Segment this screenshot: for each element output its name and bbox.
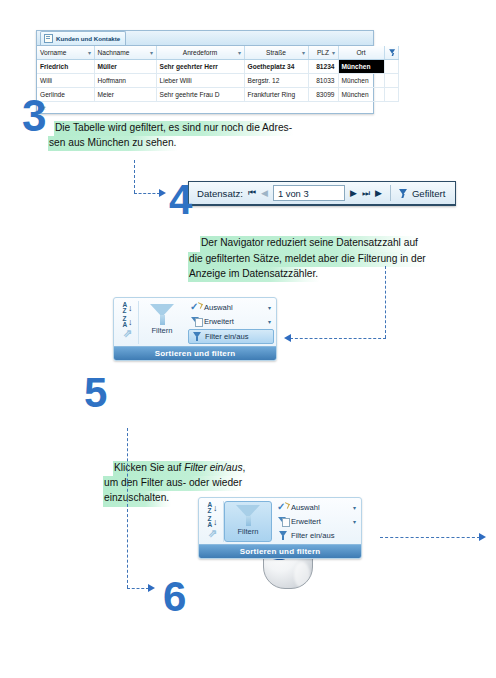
- cell-spacer: [384, 88, 398, 102]
- filter-big-button[interactable]: Filtern: [224, 501, 272, 542]
- cell-plz[interactable]: 81033: [308, 74, 338, 88]
- chevron-down-icon[interactable]: ▾: [332, 50, 335, 56]
- chevron-down-icon[interactable]: ▾: [238, 50, 241, 56]
- toggle-filter-label: Filter ein/aus: [291, 531, 334, 540]
- new-record-icon[interactable]: ▶: [375, 188, 382, 198]
- table-row[interactable]: Gerlinde Meier Sehr geehrte Frau D Frank…: [37, 88, 398, 102]
- chevron-down-icon[interactable]: ▾: [353, 518, 356, 525]
- step-3-line-2: sen aus München zu sehen.: [48, 136, 178, 151]
- cell-nachname[interactable]: Hoffmann: [94, 74, 156, 88]
- document-tab-strip: Kunden und Kontakte: [37, 31, 373, 46]
- filter-commands-column: Auswahl ▾ Erweitert ▾ Filter ein/aus: [185, 301, 274, 344]
- step-number-6: 6: [163, 580, 185, 614]
- datasheet-header-row: Vorname▾ Nachname▾ Anredeform▾ Straße▾ P…: [37, 46, 398, 60]
- toggle-filter-icon: [192, 332, 202, 342]
- column-header-nachname[interactable]: Nachname▾: [94, 46, 156, 60]
- new-record-row[interactable]: [37, 102, 373, 113]
- column-header-filter-indicator[interactable]: [384, 46, 398, 60]
- filter-big-button-label: Filtern: [151, 326, 172, 335]
- cell-ort[interactable]: München: [338, 88, 384, 102]
- ribbon-group-sort-and-filter-step6: AZ ↓ ZA ↓ ⇗ Filtern Auswahl ▾ Erweitert …: [198, 497, 362, 559]
- cell-strasse[interactable]: Bergstr. 12: [244, 74, 308, 88]
- filter-commands-column: Auswahl ▾ Erweitert ▾ Filter ein/aus: [272, 501, 359, 542]
- cell-nachname[interactable]: Meier: [94, 88, 156, 102]
- clear-sort-icon[interactable]: ⇗: [208, 530, 217, 536]
- record-navigator-bar: Datensatz: ⏮ ◀ 1 von 3 ▶ ⏭ ▶ Gefiltert: [188, 181, 456, 206]
- connector-arrow-to-step4: [159, 189, 166, 197]
- step-5-line-1: Klicken Sie auf Filter ein/aus,: [113, 461, 247, 476]
- chevron-down-icon[interactable]: ▾: [150, 50, 153, 56]
- cell-anredeform[interactable]: Sehr geehrter Herr: [156, 60, 244, 74]
- table-row[interactable]: Willi Hoffmann Lieber Willi Bergstr. 12 …: [37, 74, 398, 88]
- cell-vorname[interactable]: Willi: [37, 74, 94, 88]
- step-3-line-1: Die Tabelle wird gefiltert, es sind nur …: [54, 121, 294, 136]
- clear-sort-icon[interactable]: ⇗: [123, 330, 132, 336]
- toggle-filter-button[interactable]: Filter ein/aus: [275, 529, 359, 542]
- advanced-filter-icon: [191, 317, 201, 327]
- connector-step4-to-step5-vertical: [385, 266, 386, 338]
- selection-filter-button[interactable]: Auswahl ▾: [275, 501, 359, 514]
- cell-plz[interactable]: 83099: [308, 88, 338, 102]
- column-label: Anredeform: [183, 49, 217, 56]
- step-number-3: 3: [22, 98, 45, 134]
- chevron-down-icon[interactable]: ▾: [88, 50, 91, 56]
- cell-strasse[interactable]: Goetheplatz 34: [244, 60, 308, 74]
- first-record-icon[interactable]: ⏮: [248, 188, 256, 199]
- cell-vorname[interactable]: Friedrich: [37, 60, 94, 74]
- document-tab-kunden-und-kontakte[interactable]: Kunden und Kontakte: [40, 31, 126, 45]
- step-number-4: 4: [169, 183, 191, 217]
- column-label: PLZ: [317, 49, 329, 56]
- down-arrow-icon: ↓: [128, 318, 133, 326]
- step-5-line-1-prefix: Klicken Sie auf: [114, 462, 184, 473]
- navigator-label: Datensatz:: [197, 188, 243, 199]
- record-position-input[interactable]: 1 von 3: [273, 185, 345, 201]
- chevron-down-icon[interactable]: ▾: [353, 504, 356, 511]
- sort-a-to-z-icon[interactable]: AZ ↓: [122, 302, 132, 314]
- step-4-line-2: die gefilterten Sätze, meldet aber die F…: [188, 252, 428, 267]
- cell-ort-selected[interactable]: München: [338, 60, 384, 74]
- column-label: Straße: [266, 49, 286, 56]
- column-label: Vorname: [40, 49, 66, 56]
- table-row[interactable]: Friedrich Müller Sehr geehrter Herr Goet…: [37, 60, 398, 74]
- column-label: Ort: [356, 49, 365, 56]
- selection-filter-label: Auswahl: [291, 503, 320, 512]
- column-header-strasse[interactable]: Straße▾: [244, 46, 308, 60]
- step-5-line-2: um den Filter aus- oder wieder: [103, 476, 244, 491]
- column-header-anredeform[interactable]: Anredeform▾: [156, 46, 244, 60]
- column-header-ort[interactable]: Ort: [338, 46, 384, 60]
- last-record-icon[interactable]: ⏭: [362, 188, 370, 199]
- cell-anredeform[interactable]: Sehr geehrte Frau D: [156, 88, 244, 102]
- connector-step5-to-step6-vertical: [127, 428, 128, 588]
- selection-filter-icon: [191, 303, 201, 313]
- column-header-plz[interactable]: PLZ▾: [308, 46, 338, 60]
- sort-buttons-column: AZ ↓ ZA ↓ ⇗: [202, 501, 224, 542]
- chevron-down-icon[interactable]: ▾: [302, 50, 305, 56]
- sort-asc-letter-bottom: Z: [122, 308, 127, 314]
- toggle-filter-button[interactable]: Filter ein/aus: [188, 329, 274, 344]
- chevron-down-icon[interactable]: ▾: [268, 304, 271, 311]
- cell-strasse[interactable]: Frankfurter Ring: [244, 88, 308, 102]
- chevron-down-icon[interactable]: ▾: [268, 318, 271, 325]
- cell-nachname[interactable]: Müller: [94, 60, 156, 74]
- mouse-gloss: [294, 562, 310, 588]
- filtered-status-button[interactable]: Gefiltert: [395, 182, 452, 204]
- advanced-filter-icon: [278, 517, 288, 527]
- ribbon-group-title: Sortieren und filtern: [114, 346, 276, 360]
- filter-big-button[interactable]: Filtern: [139, 301, 185, 344]
- navigator-divider: [390, 185, 391, 201]
- step-4-line-1: Der Navigator reduziert seine Datensatzz…: [200, 236, 420, 251]
- previous-record-icon[interactable]: ◀: [261, 188, 268, 198]
- down-arrow-icon: ↓: [213, 518, 218, 526]
- cell-ort[interactable]: München: [338, 74, 384, 88]
- column-header-vorname[interactable]: Vorname▾: [37, 46, 94, 60]
- sort-a-to-z-icon[interactable]: AZ ↓: [207, 502, 217, 514]
- step-5-emphasis-filter-toggle: Filter ein/aus: [184, 462, 242, 473]
- cell-spacer: [384, 74, 398, 88]
- next-record-icon[interactable]: ▶: [350, 188, 357, 198]
- cell-vorname[interactable]: Gerlinde: [37, 88, 94, 102]
- advanced-filter-button[interactable]: Erweitert ▾: [188, 315, 274, 328]
- advanced-filter-button[interactable]: Erweitert ▾: [275, 515, 359, 528]
- cell-anredeform[interactable]: Lieber Willi: [156, 74, 244, 88]
- cell-plz[interactable]: 81234: [308, 60, 338, 74]
- selection-filter-button[interactable]: Auswahl ▾: [188, 301, 274, 314]
